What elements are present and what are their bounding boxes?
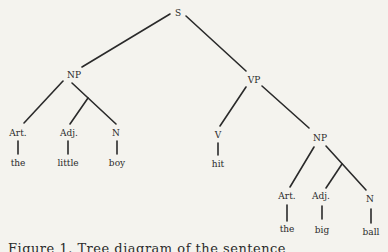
edge-np-n <box>72 83 116 124</box>
word-ball: ball <box>363 228 380 237</box>
node-adj-object: Adj. <box>312 192 330 201</box>
node-vp: VP <box>248 76 261 85</box>
edge-vp-np <box>262 86 309 128</box>
node-art-subject: Art. <box>9 129 26 138</box>
node-n-subject: N <box>112 129 120 138</box>
edge-np-art <box>24 81 63 123</box>
word-big: big <box>315 226 329 235</box>
tree-edges <box>0 0 388 252</box>
node-s: S <box>175 9 181 18</box>
node-adj-subject: Adj. <box>60 129 78 138</box>
syntax-tree-diagram: S NP VP Art. Adj. N V NP Art. Adj. N the… <box>0 0 388 252</box>
figure-caption: Figure 1. Tree diagram of the sentence <box>8 241 286 252</box>
word-hit: hit <box>212 160 224 169</box>
edge-s-np <box>82 14 170 67</box>
word-the-object: the <box>280 225 295 234</box>
node-np-object: NP <box>313 134 327 143</box>
edge-np2-n <box>326 146 366 190</box>
edge-vp-v <box>220 87 246 126</box>
edge-np2-adj <box>326 164 342 188</box>
node-np-subject: NP <box>67 71 81 80</box>
node-v: V <box>215 131 222 140</box>
word-little: little <box>57 159 78 168</box>
word-boy: boy <box>109 159 125 168</box>
edge-np-adj <box>70 98 88 124</box>
edge-np2-art <box>290 147 314 187</box>
edge-s-vp <box>186 16 246 71</box>
word-the-subject: the <box>11 159 26 168</box>
node-n-object: N <box>366 195 374 204</box>
node-art-object: Art. <box>278 192 295 201</box>
